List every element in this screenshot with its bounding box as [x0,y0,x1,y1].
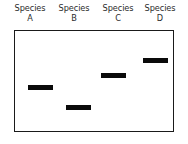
column-header-species-b: Species B [50,4,98,22]
column-header-species-c: Species C [94,4,142,22]
range-bar-species-a: 35 [28,85,53,90]
species-range-figure: Species A Species B Species C Species D … [0,0,188,144]
range-bar-species-c: 55 [101,73,126,78]
column-header-species-word-a: Species [6,4,54,13]
plot-frame: 35 20 55 70 [14,30,174,132]
column-header-species-word-d: Species [136,4,184,13]
column-header-letter-a: A [6,14,54,23]
column-header-species-a: Species A [6,4,54,22]
range-bar-species-d: 70 [143,58,168,63]
column-header-species-word-c: Species [94,4,142,13]
column-header-species-d: Species D [136,4,184,22]
column-header-species-word-b: Species [50,4,98,13]
column-header-letter-b: B [50,14,98,23]
column-header-letter-c: C [94,14,142,23]
range-bar-species-b: 20 [66,105,91,110]
column-header-letter-d: D [136,14,184,23]
